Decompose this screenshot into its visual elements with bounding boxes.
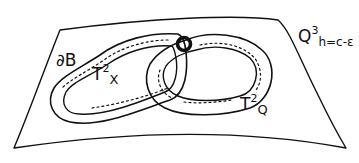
diagram-canvas (0, 0, 359, 163)
surface-label-sub: h=c-ε (318, 35, 353, 49)
torus-x-label: T2X (92, 66, 118, 83)
torus-q-label: T2Q (240, 96, 268, 113)
torus-x-outer (51, 34, 187, 124)
surface-label: Q3h=c-ε (298, 28, 353, 45)
torus-q-inner (163, 47, 256, 100)
torus-x-label-base: T (92, 64, 102, 84)
torus-q-hatching (200, 43, 261, 90)
torus-q-label-base: T (240, 94, 250, 114)
boundary-label: ∂B (56, 52, 76, 69)
torus-q-label-sub: Q (257, 102, 267, 117)
torus-x-label-sub: X (109, 72, 118, 87)
surface-label-base: Q (298, 26, 311, 46)
